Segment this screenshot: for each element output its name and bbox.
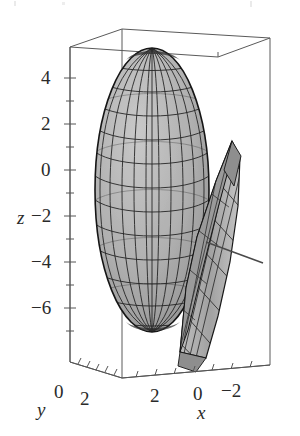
y-axis <box>70 358 122 378</box>
x-tick-label-2: 2 <box>150 386 160 405</box>
y-tick-label-0: 0 <box>54 382 64 401</box>
y-axis-label: y <box>37 400 45 419</box>
z-tick-label-4: 4 <box>41 68 51 87</box>
x-tick-label-0: 0 <box>193 384 203 403</box>
plot-canvas: 4 2 0 −2 −4 −6 z 0 2 y 2 0 −2 x <box>0 0 300 436</box>
x-tick-label-minus-2: −2 <box>221 381 241 400</box>
z-tick-label-minus-2: −2 <box>31 206 51 225</box>
z-tick-label-minus-4: −4 <box>31 252 51 271</box>
z-tick-label-0: 0 <box>41 160 51 179</box>
x-axis-label: x <box>197 403 205 422</box>
z-tick-label-minus-6: −6 <box>31 298 51 317</box>
z-axis <box>64 47 76 362</box>
z-tick-label-2: 2 <box>41 114 51 133</box>
y-tick-label-2: 2 <box>80 389 90 408</box>
z-axis-label: z <box>17 208 24 227</box>
